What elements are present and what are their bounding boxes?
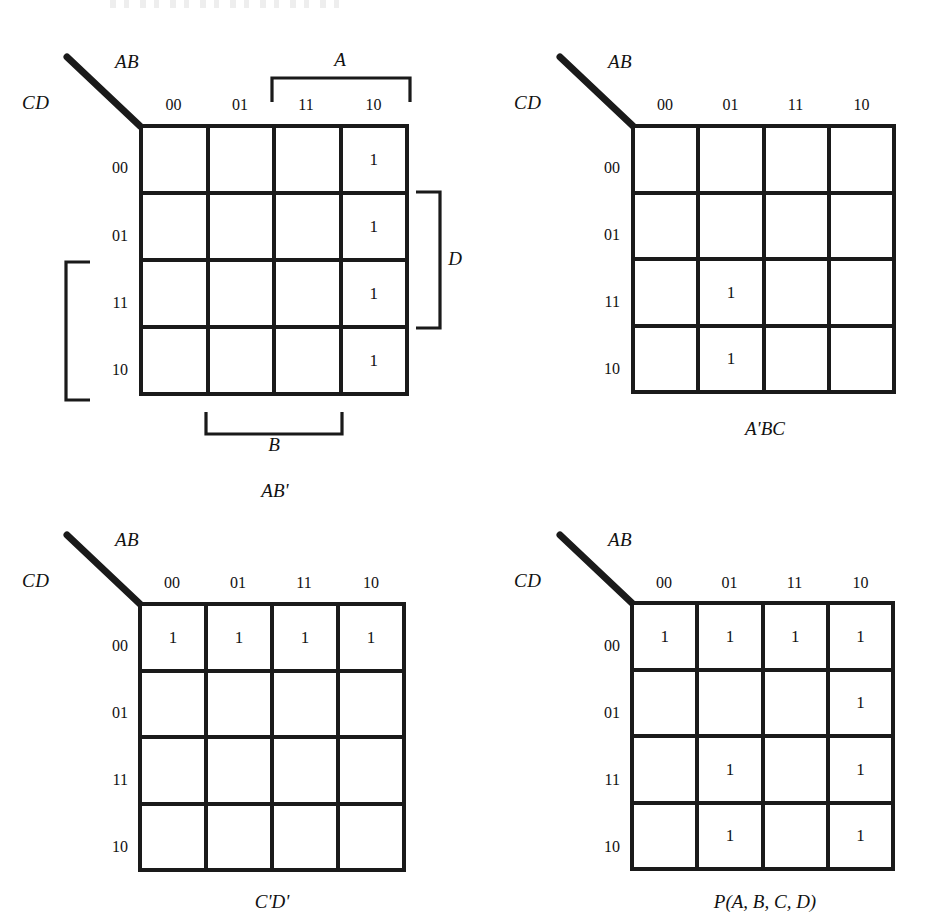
kmap-cell-r0c0[interactable] (143, 128, 206, 191)
kmap-cell-r1c1[interactable] (208, 673, 270, 736)
kmap-caption-p-abcd: P(A, B, C, D) (650, 891, 880, 913)
kmap-cell-r0c3[interactable]: 1 (343, 128, 406, 191)
kmap-cell-r0c0[interactable]: 1 (142, 606, 204, 669)
kmap-cell-r3c1[interactable]: 1 (699, 805, 760, 868)
column-header-00: 00 (632, 96, 698, 114)
kmap-cell-r2c1[interactable]: 1 (699, 738, 760, 801)
kmap-cell-r3c0[interactable] (143, 329, 206, 392)
bracket-b-label: B (234, 434, 314, 456)
kmap-grid-c-prime-d-prime: 1 1 1 1 (138, 602, 406, 872)
kmap-cell-r3c0[interactable] (142, 806, 204, 869)
bracket-d (414, 188, 444, 332)
column-header-10: 10 (337, 574, 405, 592)
bracket-a (268, 74, 414, 104)
bracket-c (62, 258, 92, 404)
kmap-cell-r3c2[interactable] (766, 328, 827, 391)
kmap-cell-r3c3[interactable]: 1 (343, 329, 406, 392)
column-header-01: 01 (207, 96, 273, 114)
kmap-cell-r1c2[interactable] (765, 672, 826, 735)
kmap-cell-r3c2[interactable] (274, 806, 336, 869)
kmap-cell-r2c3[interactable] (831, 261, 892, 324)
axis-top-label-ab: AB (115, 529, 139, 551)
kmap-cell-r0c0[interactable] (635, 128, 696, 191)
axis-top-label-ab: AB (608, 529, 632, 551)
kmap-cell-r0c2[interactable]: 1 (274, 606, 336, 669)
kmap-cell-r1c0[interactable] (635, 195, 696, 258)
row-header-01: 01 (78, 227, 128, 245)
kmap-cell-r1c1[interactable] (699, 672, 760, 735)
kmap-cell-r2c2[interactable] (766, 261, 827, 324)
kmap-cell-r0c0[interactable]: 1 (634, 605, 695, 668)
kmap-cell-r2c1[interactable]: 1 (700, 261, 761, 324)
kmap-cell-r3c1[interactable] (210, 329, 273, 392)
kmap-cell-r3c3[interactable] (831, 328, 892, 391)
kmap-cell-r3c0[interactable] (635, 328, 696, 391)
kmap-cell-r1c1[interactable] (210, 195, 273, 258)
row-header-01: 01 (78, 704, 128, 722)
kmap-cell-r3c0[interactable] (634, 805, 695, 868)
kmap-cell-r1c0[interactable] (634, 672, 695, 735)
bracket-d-label: D (444, 248, 466, 270)
kmap-cell-r3c1[interactable]: 1 (700, 328, 761, 391)
kmap-cell-r0c1[interactable]: 1 (208, 606, 270, 669)
row-header-00: 00 (570, 159, 620, 177)
kmap-cell-r0c2[interactable]: 1 (765, 605, 826, 668)
kmap-cell-r1c3[interactable]: 1 (830, 672, 891, 735)
kmap-cell-r1c2[interactable] (274, 673, 336, 736)
kmap-cell-r3c3[interactable] (340, 806, 402, 869)
kmap-cell-r1c2[interactable] (276, 195, 339, 258)
kmap-cell-r2c2[interactable] (765, 738, 826, 801)
column-header-10: 10 (828, 96, 895, 114)
kmap-cell-r2c3[interactable]: 1 (343, 262, 406, 325)
column-header-11: 11 (271, 574, 337, 592)
row-header-01: 01 (570, 226, 620, 244)
kmap-cell-r1c1[interactable] (700, 195, 761, 258)
kmap-cell-r2c0[interactable] (635, 261, 696, 324)
kmap-cell-r3c1[interactable] (208, 806, 270, 869)
kmap-cell-r0c2[interactable] (276, 128, 339, 191)
kmap-cell-r1c3[interactable] (340, 673, 402, 736)
row-header-11: 11 (570, 293, 620, 311)
kmap-cell-r0c3[interactable] (831, 128, 892, 191)
kmap-cell-r3c2[interactable] (276, 329, 339, 392)
kmap-cell-r0c1[interactable] (210, 128, 273, 191)
kmap-grid-a-prime-bc: 1 1 (631, 124, 896, 394)
kmap-cell-r0c3[interactable]: 1 (830, 605, 891, 668)
kmap-cell-r1c2[interactable] (766, 195, 827, 258)
row-header-10: 10 (570, 838, 620, 856)
kmap-cell-r1c3[interactable] (831, 195, 892, 258)
column-header-00: 00 (631, 574, 697, 592)
kmap-cell-r2c0[interactable] (634, 738, 695, 801)
axis-top-label-ab: AB (115, 51, 139, 73)
kmap-cell-r2c0[interactable] (143, 262, 206, 325)
kmap-cell-r0c3[interactable]: 1 (340, 606, 402, 669)
axis-top-label-ab: AB (608, 51, 632, 73)
kmap-cell-r0c1[interactable] (700, 128, 761, 191)
bracket-a-label: A (300, 49, 380, 71)
row-header-11: 11 (78, 771, 128, 789)
kmap-cell-r2c1[interactable] (210, 262, 273, 325)
kmap-cell-r2c3[interactable] (340, 739, 402, 802)
kmap-grid-p-abcd: 1 1 1 1 1 1 1 1 1 (630, 601, 895, 871)
kmap-cell-r0c1[interactable]: 1 (699, 605, 760, 668)
kmap-caption-c-prime-d-prime: C'D' (187, 891, 357, 913)
row-header-10: 10 (78, 838, 128, 856)
axis-side-label-cd: CD (22, 570, 49, 592)
kmap-cell-r1c0[interactable] (142, 673, 204, 736)
kmap-cell-r0c2[interactable] (766, 128, 827, 191)
kmap-cell-r3c3[interactable]: 1 (830, 805, 891, 868)
kmap-cell-r2c2[interactable] (274, 739, 336, 802)
kmap-cell-r1c3[interactable]: 1 (343, 195, 406, 258)
kmap-cell-r1c0[interactable] (143, 195, 206, 258)
kmap-cell-r2c3[interactable]: 1 (830, 738, 891, 801)
kmap-cell-r2c2[interactable] (276, 262, 339, 325)
column-header-11: 11 (762, 574, 827, 592)
kmap-cell-r3c2[interactable] (765, 805, 826, 868)
column-header-00: 00 (139, 574, 205, 592)
scan-artifact-top (110, 0, 350, 8)
kmap-cell-r2c1[interactable] (208, 739, 270, 802)
row-header-00: 00 (570, 637, 620, 655)
column-header-01: 01 (697, 574, 762, 592)
kmap-cell-r2c0[interactable] (142, 739, 204, 802)
axis-side-label-cd: CD (22, 92, 49, 114)
